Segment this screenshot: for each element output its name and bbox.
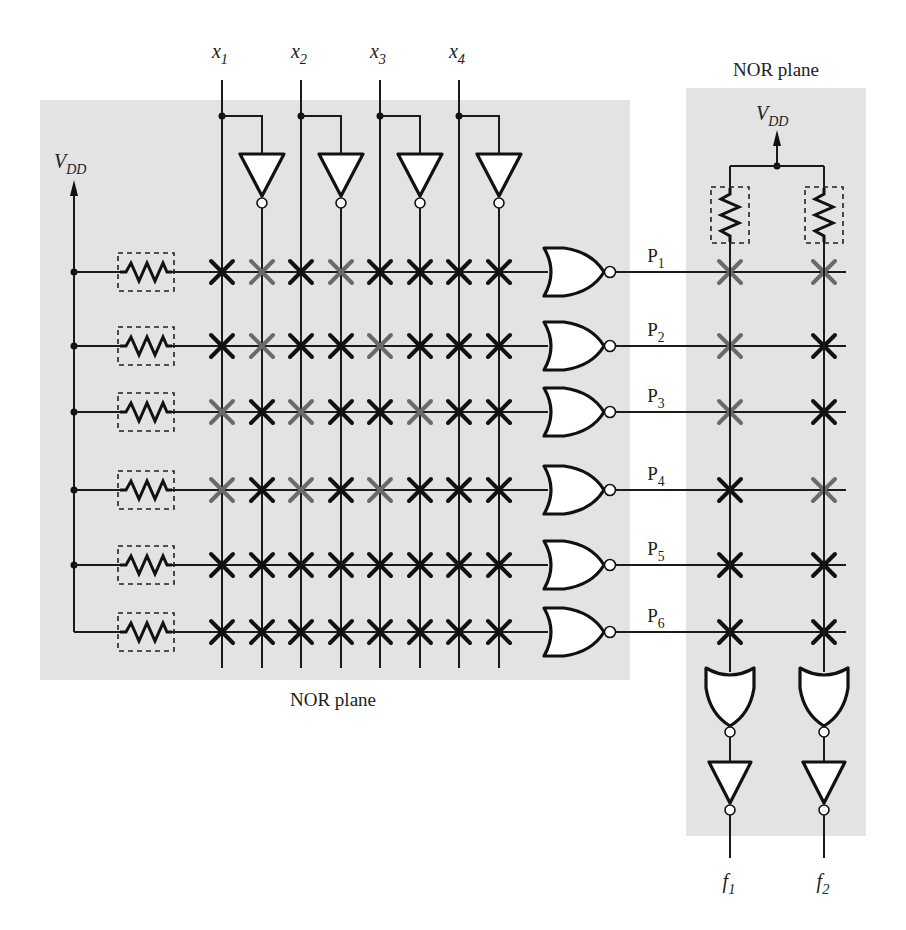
inversion-bubble-icon	[605, 341, 616, 352]
product-label-p1: P1	[647, 245, 665, 271]
inversion-bubble-icon	[605, 627, 616, 638]
inversion-bubble-icon	[725, 805, 735, 815]
inversion-bubble-icon	[336, 198, 346, 208]
output-label-f1: f1	[723, 870, 736, 897]
product-label-p2: P2	[647, 319, 665, 345]
inversion-bubble-icon	[257, 198, 267, 208]
input-label-x3: x3	[369, 40, 386, 67]
product-label-p5: P5	[647, 538, 665, 564]
nor-nor-pla-diagram: NOR plane NOR plane VDD VDD x1x2x3x4P1P2…	[0, 0, 906, 930]
or-plane-label: NOR plane	[733, 59, 819, 80]
input-label-x4: x4	[448, 40, 465, 67]
inversion-bubble-icon	[819, 727, 829, 737]
product-label-p6: P6	[647, 605, 665, 631]
and-plane-label: NOR plane	[290, 689, 376, 710]
inversion-bubble-icon	[605, 560, 616, 571]
inversion-bubble-icon	[605, 407, 616, 418]
inversion-bubble-icon	[415, 198, 425, 208]
inversion-bubble-icon	[819, 805, 829, 815]
output-label-f2: f2	[817, 870, 830, 897]
product-label-p3: P3	[647, 385, 665, 411]
input-label-x1: x1	[211, 40, 228, 67]
inversion-bubble-icon	[605, 485, 616, 496]
inversion-bubble-icon	[725, 727, 735, 737]
or-nor-plane-panel	[686, 88, 866, 836]
inversion-bubble-icon	[494, 198, 504, 208]
input-label-x2: x2	[290, 40, 307, 67]
inversion-bubble-icon	[605, 267, 616, 278]
product-label-p4: P4	[647, 463, 665, 489]
